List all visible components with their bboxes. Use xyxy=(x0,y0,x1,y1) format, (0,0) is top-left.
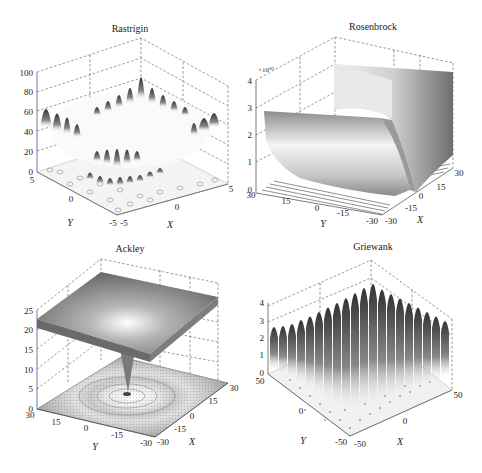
svg-text:-15: -15 xyxy=(111,430,123,440)
svg-text:80: 80 xyxy=(24,87,34,97)
svg-text:-30: -30 xyxy=(140,438,152,448)
svg-text:10: 10 xyxy=(24,365,34,375)
svg-text:-50: -50 xyxy=(354,439,366,449)
y-axis-label: Y xyxy=(92,441,99,452)
y-axis-label: Y xyxy=(320,218,327,229)
svg-text:0: 0 xyxy=(403,416,408,426)
svg-text:20: 20 xyxy=(24,325,34,335)
svg-text:1: 1 xyxy=(248,157,253,167)
svg-text:0: 0 xyxy=(299,406,304,416)
panel-title: Rastrigin xyxy=(112,23,149,34)
svg-text:5: 5 xyxy=(29,384,34,394)
svg-text:0: 0 xyxy=(175,202,180,212)
svg-text:-5: -5 xyxy=(120,218,128,228)
x-axis-label: X xyxy=(166,219,174,230)
svg-text:-15: -15 xyxy=(405,203,417,213)
svg-text:60: 60 xyxy=(24,107,34,117)
z-axis-ticks: 0 20 40 60 80 100 xyxy=(20,68,34,177)
panel-ackley: Ackley 0 5 xyxy=(24,243,239,452)
figure-canvas: Rastrigin xyxy=(0,0,482,473)
svg-text:4: 4 xyxy=(260,298,265,308)
panel-rosenbrock: Rosenbrock ×10¹⁰ xyxy=(247,21,465,229)
svg-text:25: 25 xyxy=(24,306,34,316)
svg-text:-50: -50 xyxy=(335,437,347,447)
z-axis-ticks: 0 5 10 15 20 25 xyxy=(24,306,34,414)
svg-text:2: 2 xyxy=(248,130,253,140)
svg-text:100: 100 xyxy=(20,68,34,78)
svg-text:15: 15 xyxy=(437,182,447,192)
svg-text:-30: -30 xyxy=(157,437,169,447)
svg-text:15: 15 xyxy=(282,196,292,206)
svg-text:15: 15 xyxy=(209,396,219,406)
z-multiplier: ×10¹⁰ xyxy=(258,66,274,74)
panel-rastrigin: Rastrigin xyxy=(20,23,234,230)
svg-text:5: 5 xyxy=(229,184,234,194)
x-axis-label: X xyxy=(188,436,196,447)
svg-text:-30: -30 xyxy=(385,216,397,226)
z-axis-ticks: 0 1 2 3 4 xyxy=(260,298,265,378)
panel-title: Griewank xyxy=(353,241,392,252)
svg-text:2: 2 xyxy=(260,333,265,343)
z-axis-ticks: 0 1 2 3 4 xyxy=(248,76,253,195)
svg-text:50: 50 xyxy=(256,376,266,386)
y-axis-label: Y xyxy=(67,217,74,228)
panel-title: Rosenbrock xyxy=(349,21,397,32)
svg-text:0: 0 xyxy=(315,203,320,213)
x-axis-label: X xyxy=(416,214,424,225)
svg-text:30: 30 xyxy=(230,383,240,393)
svg-text:5: 5 xyxy=(30,175,35,185)
svg-text:0: 0 xyxy=(84,423,89,433)
svg-text:40: 40 xyxy=(24,127,34,137)
y-axis-ticks: 30 15 0 -15 -30 xyxy=(247,190,379,226)
svg-text:4: 4 xyxy=(248,76,253,86)
y-axis-label: Y xyxy=(300,435,307,446)
svg-text:-5: -5 xyxy=(109,218,117,228)
svg-text:15: 15 xyxy=(24,345,34,355)
svg-text:20: 20 xyxy=(24,147,34,157)
svg-text:3: 3 xyxy=(260,316,265,326)
svg-text:15: 15 xyxy=(52,417,62,427)
panel-title: Ackley xyxy=(116,243,145,254)
panel-griewank: Griewank xyxy=(256,241,464,449)
svg-text:30: 30 xyxy=(26,410,36,420)
svg-text:-15: -15 xyxy=(174,424,186,434)
svg-text:3: 3 xyxy=(248,103,253,113)
svg-text:50: 50 xyxy=(454,390,464,400)
svg-text:0: 0 xyxy=(190,411,195,421)
svg-text:-30: -30 xyxy=(366,216,378,226)
svg-text:30: 30 xyxy=(455,168,465,178)
svg-text:1: 1 xyxy=(260,350,265,360)
svg-text:0: 0 xyxy=(419,191,424,201)
surface-plateau xyxy=(37,272,218,354)
x-axis-label: X xyxy=(396,436,404,447)
svg-text:30: 30 xyxy=(247,190,257,200)
svg-text:-15: -15 xyxy=(337,208,349,218)
svg-text:0: 0 xyxy=(69,194,74,204)
